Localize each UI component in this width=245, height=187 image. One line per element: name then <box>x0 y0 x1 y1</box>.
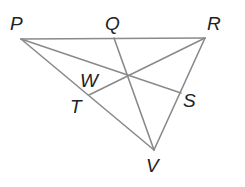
label-s: S <box>183 90 196 111</box>
label-v: V <box>146 155 161 176</box>
label-r: R <box>207 13 221 34</box>
triangle-diagram: P Q R W T S V <box>0 0 245 187</box>
label-q: Q <box>105 13 120 34</box>
label-t: T <box>70 96 83 117</box>
label-w: W <box>80 70 100 91</box>
side-pr <box>21 38 205 39</box>
side-rv <box>154 38 205 150</box>
label-p: P <box>10 13 23 34</box>
segment-ps <box>21 39 181 93</box>
segment-rt <box>89 38 205 95</box>
